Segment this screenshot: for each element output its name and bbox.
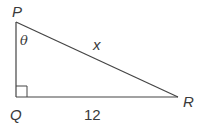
side-label-base: 12	[84, 107, 101, 122]
vertex-label-r: R	[183, 94, 194, 109]
vertex-label-q: Q	[10, 107, 22, 122]
side-label-hypotenuse: x	[93, 37, 101, 52]
side-pr-hypotenuse	[16, 22, 178, 97]
right-angle-marker	[16, 86, 27, 97]
vertex-label-p: P	[12, 4, 22, 19]
angle-label-theta: θ	[20, 34, 28, 47]
triangle-diagram: P Q R θ x 12	[0, 0, 201, 127]
